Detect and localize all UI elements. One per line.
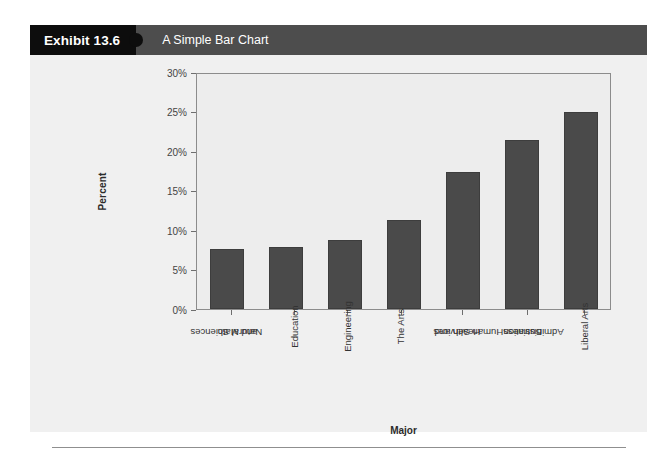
- bar-chart-figure: Percent 0%5%10%15%20%25%30% Natural Scie…: [30, 55, 647, 432]
- x-axis-label-wrapper: Liberal Arts: [561, 321, 609, 413]
- exhibit-number-label: Exhibit 13.6: [44, 33, 120, 48]
- y-axis: 0%5%10%15%20%25%30%: [126, 73, 196, 310]
- x-axis-label-wrapper: The Arts: [383, 321, 418, 413]
- bar-slot: [374, 74, 433, 309]
- x-axis-category: Health andHuman Services: [428, 310, 498, 415]
- y-axis-tick-label: 30%: [167, 68, 191, 79]
- bar-slot: [433, 74, 492, 309]
- x-axis-label-wrapper: Natural Sciencesand Math: [196, 321, 268, 413]
- bar-slot: [492, 74, 551, 309]
- y-axis-tick-label: 0%: [173, 305, 191, 316]
- y-axis-tick-label: 15%: [167, 186, 191, 197]
- bar[interactable]: [446, 172, 480, 309]
- bar[interactable]: [505, 140, 539, 309]
- y-axis-tick-label: 25%: [167, 107, 191, 118]
- bars-layer: [197, 74, 610, 309]
- x-axis-category: BusinessAdministration: [498, 310, 558, 415]
- exhibit-title-label: A Simple Bar Chart: [162, 33, 268, 47]
- x-axis-category: Liberal Arts: [558, 310, 611, 415]
- y-axis-title-label: Percent: [97, 172, 108, 210]
- x-axis-tick-label: The Arts: [396, 309, 407, 344]
- x-axis-tick-label: Natural Sciencesand Math: [221, 296, 243, 368]
- x-axis-tick-label-line2: Administration: [503, 327, 563, 338]
- footer-divider: [52, 447, 626, 448]
- x-axis-category: Engineering: [321, 310, 374, 415]
- y-axis-tick-label: 10%: [167, 226, 191, 237]
- x-axis-label-wrapper: Engineering: [322, 321, 373, 413]
- x-axis: Natural Sciencesand MathEducationEnginee…: [196, 310, 611, 415]
- x-axis-category: Natural Sciencesand Math: [196, 310, 268, 415]
- y-axis-tick-label: 5%: [173, 265, 191, 276]
- x-axis-title: Major: [196, 425, 611, 436]
- x-axis-tick-label-line2: and Math: [202, 327, 274, 338]
- y-axis-title: Percent: [94, 73, 110, 310]
- x-axis-label-wrapper: Health andHuman Services: [428, 321, 498, 413]
- x-axis-category: The Arts: [374, 310, 427, 415]
- x-axis-tick-label: Education: [289, 305, 300, 347]
- bar-slot: [256, 74, 315, 309]
- exhibit-card: Exhibit 13.6 A Simple Bar Chart Percent …: [30, 25, 647, 432]
- exhibit-header: Exhibit 13.6 A Simple Bar Chart: [30, 25, 647, 55]
- x-axis-label-wrapper: Education: [273, 321, 315, 413]
- bar-slot: [551, 74, 610, 309]
- x-axis-tick-label: Engineering: [342, 301, 353, 352]
- exhibit-number-block: Exhibit 13.6: [30, 25, 136, 55]
- x-axis-label-wrapper: BusinessAdministration: [498, 321, 558, 413]
- header-notch-decoration: [129, 33, 143, 47]
- bar-slot: [197, 74, 256, 309]
- bar[interactable]: [269, 247, 303, 309]
- y-axis-tick-label: 20%: [167, 147, 191, 158]
- x-axis-tick-label: Health andHuman Services: [452, 297, 474, 367]
- x-axis-tick-label: BusinessAdministration: [517, 302, 539, 362]
- x-axis-tick-label: Liberal Arts: [579, 303, 590, 351]
- plot-area: [196, 73, 611, 310]
- bar[interactable]: [387, 220, 421, 309]
- x-axis-category: Education: [268, 310, 321, 415]
- bar-slot: [315, 74, 374, 309]
- bar[interactable]: [328, 240, 362, 309]
- bar[interactable]: [564, 112, 598, 310]
